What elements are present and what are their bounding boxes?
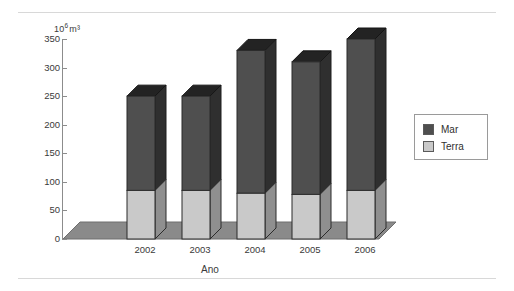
x-axis-category-label: 2004	[232, 244, 278, 255]
legend-swatch-terra-icon	[423, 141, 434, 152]
legend-item-terra: Terra	[423, 138, 487, 155]
x-axis-title: Ano	[0, 264, 420, 275]
legend-label-mar: Mar	[441, 125, 458, 135]
x-axis-category-label: 2003	[177, 244, 223, 255]
legend-swatch-mar-icon	[423, 124, 434, 135]
chart-figure: 106 m³ 050100150200250300350 20022003200…	[0, 0, 514, 291]
x-axis-category-label: 2005	[287, 244, 333, 255]
x-axis-category-label: 2002	[122, 244, 168, 255]
x-axis-category-label: 2006	[342, 244, 388, 255]
legend-item-mar: Mar	[423, 121, 487, 138]
legend-label-terra: Terra	[441, 142, 464, 152]
chart-legend: Mar Terra	[414, 114, 488, 160]
